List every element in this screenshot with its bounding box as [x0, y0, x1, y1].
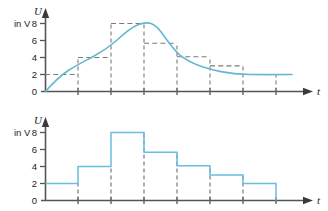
top-staircase-verticals: [78, 24, 276, 92]
quantized-step-signal: [46, 133, 277, 201]
bottom-y-axis-variable: U: [34, 114, 43, 126]
panel-bottom: U in V 8 6 4 2 0 t: [14, 114, 321, 206]
top-x-axis-arrowhead: [303, 88, 313, 95]
bottom-ytick-8: 8: [32, 127, 37, 138]
top-ytick-6: 6: [32, 35, 37, 46]
bottom-y-ticks: [40, 133, 45, 184]
top-y-ticks: [40, 24, 45, 75]
signal-quantization-figure: U in V 8 6 4 2 0 t: [0, 0, 328, 211]
top-ytick-0: 0: [32, 86, 37, 97]
bottom-x-axis-variable: t: [317, 194, 321, 206]
bottom-ytick-6: 6: [32, 144, 37, 155]
top-ytick-4: 4: [32, 52, 37, 63]
top-y-axis-unit: in V: [14, 18, 31, 29]
bottom-ytick-4: 4: [32, 161, 37, 172]
bottom-ytick-2: 2: [32, 178, 37, 189]
bottom-ytick-0: 0: [32, 195, 37, 206]
top-ytick-8: 8: [32, 18, 37, 29]
bottom-x-axis-arrowhead: [303, 197, 313, 204]
bottom-y-axis-unit: in V: [14, 127, 31, 138]
top-y-axis-variable: U: [34, 5, 43, 17]
panel-top: U in V 8 6 4 2 0 t: [14, 5, 321, 97]
bottom-y-axis-arrowhead: [42, 117, 49, 127]
top-ytick-2: 2: [32, 69, 37, 80]
top-y-axis-arrowhead: [42, 8, 49, 18]
top-x-axis-variable: t: [317, 85, 321, 97]
